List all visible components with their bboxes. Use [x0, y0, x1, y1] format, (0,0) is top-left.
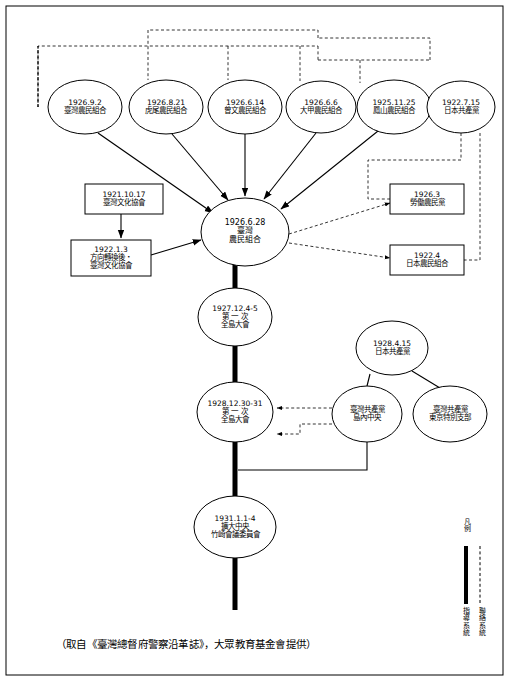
ellipse-nodes-group: [48, 80, 495, 558]
node-n1926_9_2: [48, 80, 122, 134]
figure-caption: （取自《臺灣總督府警察沿革誌》，大眾教育基金會提供）: [56, 636, 316, 651]
dashed-links-right: [289, 203, 390, 258]
legend-group: [464, 546, 480, 604]
node-n1926_6_6: [286, 81, 356, 133]
node-n1928_12_30: [197, 382, 273, 442]
node-b1926_3: [390, 184, 464, 214]
node-n1922_7_15: [427, 81, 495, 133]
node-b1921_10_17: [85, 184, 163, 214]
node-n1926_6_28: [201, 198, 289, 266]
legend-solid-label: 指 導 系 統: [458, 608, 474, 637]
node-b1922_1_3: [71, 240, 151, 276]
node-n1931_1_1: [194, 496, 276, 558]
legend-solid-bar: [464, 546, 468, 604]
diagram-canvas: [0, 0, 509, 681]
node-b1922_4: [390, 245, 464, 275]
legend-dashed-label: 聯 絡 系 統: [474, 608, 490, 637]
node-n_taiwan_cp_island: [332, 386, 402, 442]
node-n1926_8_21: [129, 80, 203, 134]
node-n_taiwan_cp_tokyo: [413, 386, 487, 442]
node-n1925_11_25: [357, 80, 431, 134]
node-n1926_6_14: [208, 80, 282, 134]
node-n1927_12_4: [198, 288, 272, 346]
node-n1928_4_15: [356, 321, 428, 375]
legend-title: 凡 例: [452, 519, 482, 534]
